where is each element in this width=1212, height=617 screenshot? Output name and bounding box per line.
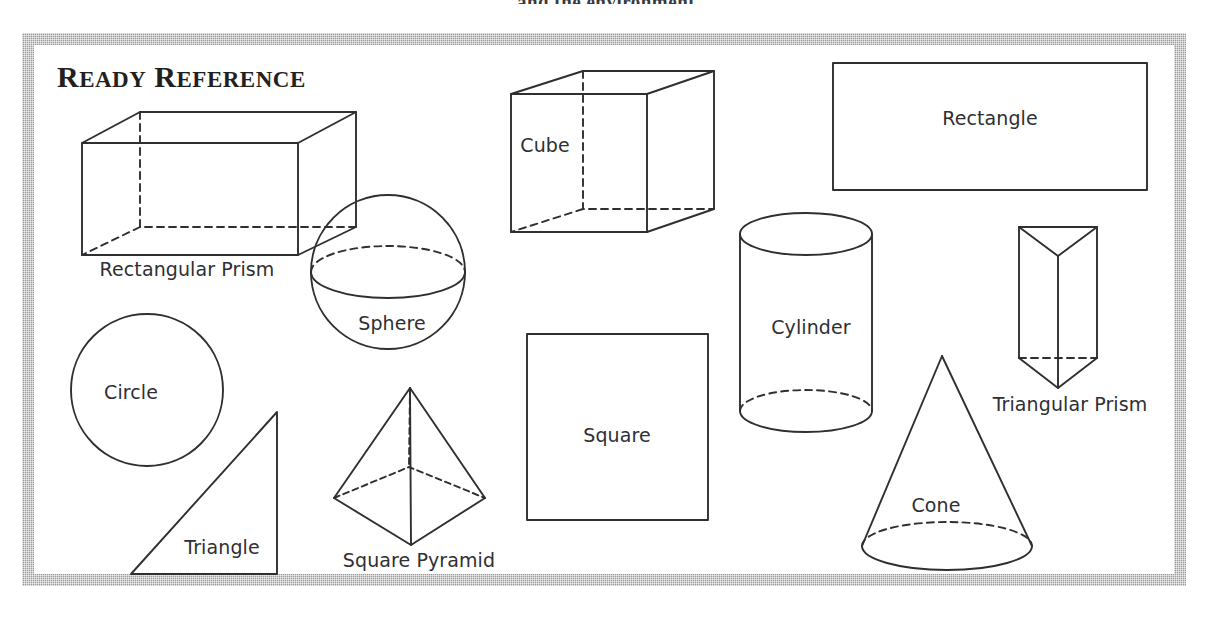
page-title: READY REFERENCE (57, 60, 306, 94)
shape-label-rectangular-prism: Rectangular Prism (100, 258, 275, 280)
shape-label-square-pyramid: Square Pyramid (343, 549, 495, 571)
shape-label-rectangle: Rectangle (942, 107, 1038, 129)
shape-label-cube: Cube (520, 134, 569, 156)
page-title-ready: EADY (79, 67, 146, 92)
page-title-initial-r1: R (57, 60, 79, 93)
shape-label-triangle: Triangle (184, 536, 259, 558)
shape-label-triangular-prism: Triangular Prism (993, 393, 1148, 415)
ready-reference-page: and the environment READY REFERENCE (0, 0, 1212, 617)
running-header-text: and the environment (0, 0, 1212, 4)
shape-label-sphere: Sphere (358, 312, 426, 334)
shape-label-square: Square (583, 424, 651, 446)
page-title-reference: EFERENCE (177, 67, 306, 92)
page-title-initial-r2: R (154, 60, 176, 93)
shape-label-circle: Circle (104, 381, 158, 403)
shape-label-cylinder: Cylinder (771, 316, 850, 338)
shape-label-cone: Cone (911, 494, 960, 516)
